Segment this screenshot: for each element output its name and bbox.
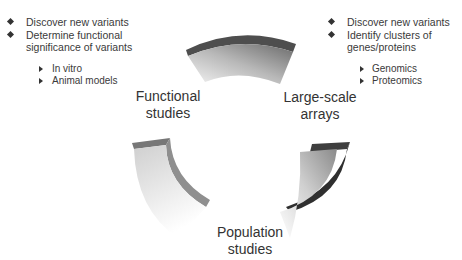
note-item: Discover new variants [0, 16, 132, 29]
note-item: Determine functionalsignificance of vari… [0, 29, 132, 54]
note-item: Identify clusters ofgenes/proteins [322, 29, 450, 54]
note-sub-item: Proteomics [322, 75, 450, 88]
note-item: Discover new variants [322, 16, 450, 29]
note-sub-item: In vitro [0, 63, 132, 76]
note-sub-item: Genomics [322, 63, 450, 76]
large-scale-arrays-label: Large-scalearrays [270, 89, 370, 123]
top-arc-segment [186, 35, 296, 84]
functional-studies-label: Functionalstudies [128, 88, 208, 122]
population-studies-label: Populationstudies [200, 224, 300, 258]
large-scale-arrays-notes: Discover new variants Identify clusters … [322, 16, 450, 88]
note-sub-item: Animal models [0, 75, 132, 88]
functional-studies-notes: Discover new variants Determine function… [0, 16, 132, 88]
left-arc-segment [132, 138, 210, 238]
